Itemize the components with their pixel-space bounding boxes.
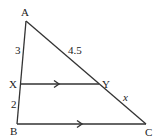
length-label-yc: x [122, 91, 128, 103]
triangle-diagram: A X Y B C 3 2 4.5 x [0, 0, 158, 140]
length-label-ay: 4.5 [68, 44, 82, 56]
vertex-label-y: Y [102, 78, 110, 90]
vertex-label-b: B [10, 125, 17, 137]
length-label-xb: 2 [11, 98, 17, 110]
length-label-ax: 3 [15, 44, 21, 56]
side-ab [17, 21, 26, 124]
vertex-label-x: X [9, 78, 17, 90]
vertex-label-c: C [145, 126, 152, 138]
vertex-label-a: A [21, 6, 29, 18]
side-ac [26, 21, 146, 124]
